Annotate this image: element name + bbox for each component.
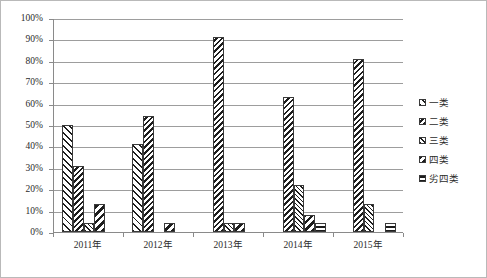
y-tick-label: 100%: [21, 14, 43, 24]
x-tick-label: 2015年: [354, 241, 383, 251]
bar: [385, 223, 396, 232]
x-tick-label: 2012年: [144, 241, 173, 251]
chart-legend: 一类二类三类四类劣四类: [419, 93, 481, 188]
x-tick-mark: [403, 233, 404, 237]
legend-item-label: 四类: [429, 155, 449, 165]
legend-item-label: 劣四类: [429, 174, 459, 184]
y-tick-label: 90%: [26, 36, 43, 46]
bar: [353, 59, 364, 232]
bar: [84, 223, 95, 232]
legend-item-label: 三类: [429, 136, 449, 146]
bar: [315, 223, 326, 232]
bar: [294, 185, 305, 232]
y-tick-label: 20%: [26, 185, 43, 195]
legend-swatch-icon: [419, 118, 426, 125]
legend-item-1[interactable]: 一类: [419, 93, 481, 112]
legend-item-5[interactable]: 劣四类: [419, 169, 481, 188]
y-tick-label: 60%: [26, 100, 43, 110]
bar: [283, 97, 294, 232]
x-axis: 2011年2012年2013年2014年2015年: [53, 233, 403, 259]
x-tick-mark: [263, 233, 264, 237]
legend-item-label: 二类: [429, 117, 449, 127]
y-tick-label: 50%: [26, 121, 43, 131]
bar: [224, 223, 235, 232]
bar: [304, 215, 315, 232]
plot-area: [53, 19, 403, 233]
legend-swatch-icon: [419, 156, 426, 163]
y-tick-label: 70%: [26, 78, 43, 88]
legend-item-3[interactable]: 三类: [419, 131, 481, 150]
y-tick-label: 80%: [26, 57, 43, 67]
bar: [94, 204, 105, 232]
x-tick-mark: [53, 233, 54, 237]
legend-item-2[interactable]: 二类: [419, 112, 481, 131]
x-tick-label: 2011年: [74, 241, 103, 251]
y-tick-label: 30%: [26, 164, 43, 174]
chart-container: 0%10%20%30%40%50%60%70%80%90%100% 2011年2…: [0, 0, 487, 278]
bar: [143, 116, 154, 232]
bar: [213, 37, 224, 232]
x-tick-label: 2014年: [284, 241, 313, 251]
bar: [62, 125, 73, 232]
legend-swatch-icon: [419, 137, 426, 144]
bar: [234, 223, 245, 232]
y-tick-label: 10%: [26, 207, 43, 217]
legend-swatch-icon: [419, 99, 426, 106]
x-tick-label: 2013年: [214, 241, 243, 251]
x-tick-mark: [333, 233, 334, 237]
bars-layer: [54, 19, 403, 232]
legend-item-4[interactable]: 四类: [419, 150, 481, 169]
x-tick-mark: [193, 233, 194, 237]
bar: [132, 144, 143, 232]
y-tick-label: 0%: [30, 228, 43, 238]
bar: [73, 166, 84, 232]
y-axis: 0%10%20%30%40%50%60%70%80%90%100%: [1, 19, 49, 233]
bar: [164, 223, 175, 232]
legend-item-label: 一类: [429, 98, 449, 108]
y-tick-label: 40%: [26, 143, 43, 153]
x-tick-mark: [123, 233, 124, 237]
bar: [364, 204, 375, 232]
legend-swatch-icon: [419, 175, 426, 182]
